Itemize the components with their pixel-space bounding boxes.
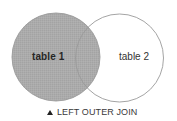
diagram-caption: LEFT OUTER JOIN (47, 107, 137, 117)
venn-diagram (0, 0, 177, 121)
table1-label: table 1 (32, 52, 64, 62)
table2-label: table 2 (119, 52, 149, 62)
caption-text: LEFT OUTER JOIN (57, 108, 137, 117)
triangle-up-icon (47, 110, 53, 115)
